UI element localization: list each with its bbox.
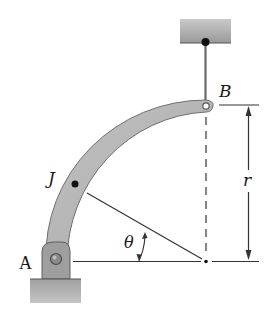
ground-support [30, 279, 81, 303]
radius-arrow-up [246, 106, 252, 116]
label-a: A [19, 253, 32, 273]
ceiling-pin [202, 38, 210, 46]
pin-a [51, 254, 62, 265]
point-j [72, 181, 79, 188]
curved-bar-diagram: B r J θ A [0, 0, 270, 313]
pin-a-highlight [53, 256, 57, 260]
angle-arrow-top [142, 232, 148, 239]
radius-arrow-down [246, 250, 252, 260]
label-r: r [243, 170, 252, 190]
pin-b [203, 103, 209, 109]
center-point [204, 260, 208, 264]
label-theta: θ [124, 233, 134, 252]
radial-line [87, 193, 202, 259]
label-b: B [218, 81, 232, 101]
label-j: J [45, 168, 56, 188]
